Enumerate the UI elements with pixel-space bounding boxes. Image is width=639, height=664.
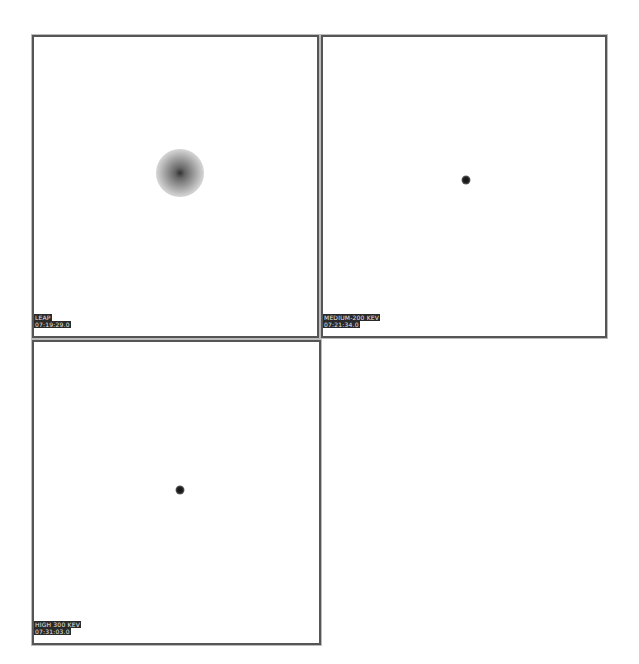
image-panel-top-right[interactable]: MEDIUM-200 KEV 07:21:34.0	[321, 35, 607, 338]
panel-label: LEAP 07:19:29.0	[34, 314, 71, 328]
diffuse-source-blob	[156, 149, 204, 197]
panel-name: MEDIUM-200 KEV	[323, 314, 380, 321]
panel-timestamp: 07:19:29.0	[34, 321, 71, 328]
panel-timestamp: 07:31:03.0	[34, 628, 71, 635]
panel-label: HIGH 300 KEV 07:31:03.0	[34, 621, 81, 635]
point-source-blob	[176, 486, 185, 495]
panel-timestamp: 07:21:34.0	[323, 321, 360, 328]
image-panel-bottom-left[interactable]: HIGH 300 KEV 07:31:03.0	[32, 340, 321, 645]
point-source-blob	[462, 176, 471, 185]
panel-name: HIGH 300 KEV	[34, 621, 81, 628]
panel-name: LEAP	[34, 314, 52, 321]
panel-label: MEDIUM-200 KEV 07:21:34.0	[323, 314, 380, 328]
image-panel-top-left[interactable]: LEAP 07:19:29.0	[32, 35, 319, 338]
